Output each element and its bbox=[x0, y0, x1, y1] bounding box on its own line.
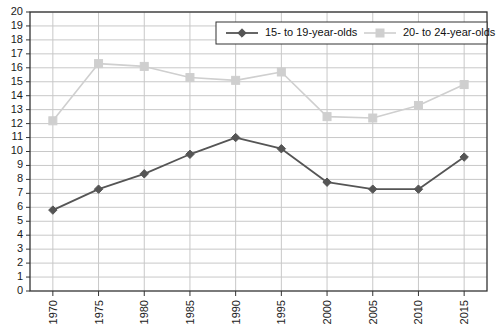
data-series-layer bbox=[49, 60, 469, 215]
data-point-marker bbox=[376, 29, 384, 37]
x-tick-label: 2010 bbox=[412, 300, 424, 324]
chart-canvas: 01234567891011121314151617181920 1970197… bbox=[0, 0, 500, 331]
y-tick-label: 6 bbox=[17, 200, 23, 212]
chart-legend: 15- to 19-year-olds20- to 24-year-olds bbox=[216, 22, 496, 44]
legend-label: 20- to 24-year-olds bbox=[403, 26, 496, 38]
y-tick-label: 15 bbox=[11, 75, 23, 87]
y-tick-label: 2 bbox=[17, 256, 23, 268]
y-tick-label: 1 bbox=[17, 270, 23, 282]
y-tick-label: 13 bbox=[11, 103, 23, 115]
line-chart: 01234567891011121314151617181920 1970197… bbox=[0, 0, 500, 331]
data-point-marker bbox=[369, 185, 377, 193]
x-tick-label: 2000 bbox=[321, 300, 333, 324]
grid-lines bbox=[30, 12, 487, 291]
y-tick-label: 3 bbox=[17, 242, 23, 254]
y-axis-tick-labels: 01234567891011121314151617181920 bbox=[11, 5, 23, 296]
data-point-marker bbox=[49, 117, 57, 125]
y-tick-label: 11 bbox=[12, 130, 23, 142]
y-tick-label: 14 bbox=[11, 89, 23, 101]
data-point-marker bbox=[323, 113, 331, 121]
legend-label: 15- to 19-year-olds bbox=[265, 26, 358, 38]
x-tick-label: 2015 bbox=[458, 300, 470, 324]
x-tick-label: 1995 bbox=[275, 300, 287, 324]
data-point-marker bbox=[277, 68, 285, 76]
data-point-marker bbox=[94, 185, 102, 193]
y-tick-label: 5 bbox=[17, 214, 23, 226]
data-point-marker bbox=[369, 114, 377, 122]
y-tick-label: 20 bbox=[11, 5, 23, 17]
x-tick-label: 1970 bbox=[47, 300, 59, 324]
y-tick-label: 10 bbox=[11, 144, 23, 156]
series-young-adults bbox=[49, 60, 468, 125]
x-tick-label: 1985 bbox=[184, 300, 196, 324]
y-tick-label: 9 bbox=[17, 158, 23, 170]
data-point-marker bbox=[414, 101, 422, 109]
x-axis-tick-labels: 1970197519801985199019952000200520102015 bbox=[47, 300, 470, 324]
series-line bbox=[53, 138, 464, 211]
y-tick-label: 0 bbox=[17, 284, 23, 296]
data-point-marker bbox=[232, 76, 240, 84]
data-point-marker bbox=[231, 133, 239, 141]
y-tick-label: 4 bbox=[17, 228, 23, 240]
y-tick-label: 17 bbox=[11, 47, 23, 59]
x-tick-label: 1975 bbox=[93, 300, 105, 324]
y-tick-label: 12 bbox=[11, 117, 23, 129]
x-tick-label: 1990 bbox=[230, 300, 242, 324]
x-tick-label: 2005 bbox=[367, 300, 379, 324]
data-point-marker bbox=[460, 81, 468, 89]
axis-lines bbox=[26, 12, 487, 296]
y-tick-label: 19 bbox=[11, 19, 23, 31]
y-tick-label: 7 bbox=[17, 186, 23, 198]
x-tick-label: 1980 bbox=[138, 300, 150, 324]
series-line bbox=[53, 64, 464, 121]
y-tick-label: 8 bbox=[17, 172, 23, 184]
data-point-marker bbox=[140, 170, 148, 178]
series-teens bbox=[49, 133, 469, 214]
y-tick-label: 16 bbox=[11, 61, 23, 73]
data-point-marker bbox=[186, 74, 194, 82]
data-point-marker bbox=[95, 60, 103, 68]
y-tick-label: 18 bbox=[11, 33, 23, 45]
data-point-marker bbox=[140, 62, 148, 70]
